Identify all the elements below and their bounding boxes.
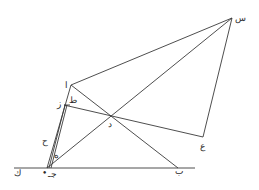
label-alif: ا: [65, 80, 68, 90]
label-zay: ز: [56, 99, 61, 110]
label-ayn: ع: [200, 141, 206, 152]
label-jim: جـ: [47, 169, 57, 179]
label-dot: •: [42, 168, 47, 178]
label-kaf: ك: [14, 168, 21, 178]
line-alif-jim: [47, 85, 71, 168]
label-dal: د: [108, 119, 112, 129]
geometric-diagram: س ا ز ط د ع ب جـ • ك ح ه: [0, 0, 259, 190]
label-ta: ط: [69, 95, 77, 105]
line-alif-sin: [71, 18, 232, 85]
label-ba: ب: [175, 166, 183, 176]
line-alif-ba: [71, 85, 178, 168]
line-zay-ayn: [64, 105, 203, 137]
label-sin: س: [235, 13, 246, 24]
label-he: ه: [54, 150, 59, 160]
label-ha: ح: [42, 136, 48, 147]
line-sin-ayn: [203, 18, 232, 137]
